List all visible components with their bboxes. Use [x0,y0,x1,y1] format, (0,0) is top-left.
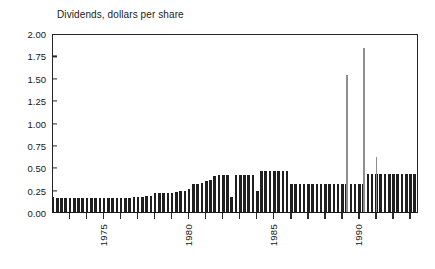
dividend-bar [273,171,276,212]
dividend-bar [86,198,89,212]
dividend-bar [358,184,361,212]
dividend-bar [320,184,323,212]
dividend-bar [230,197,233,212]
dividend-bar [354,184,357,212]
dividend-bar [73,198,76,212]
dividend-bar [290,184,293,212]
x-axis-tick-mark [409,213,410,219]
y-axis-tick-mark [52,56,57,57]
dividend-bar [286,171,289,212]
y-axis-tick-mark [52,168,57,169]
y-axis-labels: 0.000.250.500.751.001.251.501.752.00 [2,34,46,213]
dividend-bar [218,175,221,212]
dividend-bar [196,184,199,212]
dividend-bar [175,192,178,212]
dividend-bar [405,174,408,212]
dividend-bar [324,184,327,212]
dividend-bar [111,198,114,212]
dividend-bar [392,174,395,212]
dividend-bar [145,196,148,212]
x-axis-tick-label: 1990 [353,224,364,246]
x-axis-tick-mark [205,213,206,219]
dividend-bar [247,175,250,212]
dividend-bar [337,184,340,212]
dividend-bar [333,184,336,212]
bars-layer [53,35,417,212]
dividend-bar [264,171,267,212]
x-axis-tick-mark [239,213,240,219]
x-axis-tick-mark [120,213,121,219]
x-axis-tick-mark [154,213,155,219]
dividend-bar [99,198,102,212]
y-axis-tick-label: 1.75 [6,51,46,62]
dividend-bar [124,198,127,212]
dividend-bar [209,180,212,212]
dividend-bar [150,196,153,212]
dividend-bar [201,183,204,212]
dividend-bar [396,174,399,212]
dividend-bar [341,184,344,212]
dividend-bar [303,184,306,212]
dividend-bar [184,191,187,212]
dividend-bar [367,174,370,212]
y-axis-tick-mark [52,101,57,102]
dividend-bar [311,184,314,212]
dividend-bar [260,171,263,212]
dividend-bar [384,174,387,212]
y-axis-tick-mark [52,145,57,146]
y-axis-tick-mark [52,190,57,191]
y-axis-tick-label: 1.50 [6,73,46,84]
dividend-bar [107,198,110,212]
dividends-bar-chart: Dividends, dollars per share 0.000.250.5… [0,0,435,269]
x-axis-tick-mark [222,213,223,219]
y-axis-tick-mark [52,123,57,124]
dividend-bar [213,176,216,212]
dividend-bar [179,191,182,212]
dividend-bar [141,197,144,212]
dividend-bar [167,193,170,212]
x-axis-tick-mark [103,213,104,219]
dividend-bar [77,198,80,212]
special-dividend-bar [363,48,365,212]
x-axis-tick-mark [86,213,87,219]
dividend-bar [294,184,297,212]
dividend-bar [192,184,195,212]
x-axis-tick-label: 1985 [268,224,279,246]
dividend-bar [188,189,191,212]
dividend-bar [328,184,331,212]
x-axis-tick-mark [392,213,393,219]
x-axis-tick-mark [171,213,172,219]
dividend-bar [371,174,374,212]
dividend-bar [316,184,319,212]
dividend-bar [388,174,391,212]
x-axis-tick-mark [307,213,308,219]
y-axis-tick-mark [52,78,57,79]
dividend-bar [128,198,131,212]
dividend-bar [282,171,285,212]
dividend-bar [116,198,119,212]
dividend-bar [90,198,93,212]
dividend-bar [171,193,174,212]
x-axis-tick-mark [358,213,359,219]
x-axis-tick-mark [375,213,376,219]
dividend-bar [239,175,242,212]
x-axis-tick-mark [341,213,342,219]
y-axis-tick-label: 0.00 [6,208,46,219]
dividend-bar [52,197,55,212]
dividend-bar [413,174,416,212]
dividend-bar [350,184,353,212]
y-axis-tick-label: 1.00 [6,118,46,129]
dividend-bar [137,197,140,212]
dividend-bar [409,174,412,212]
y-axis-tick-label: 0.75 [6,140,46,151]
dividend-bar [269,171,272,212]
dividend-bar [205,181,208,212]
dividend-bar [64,198,67,212]
dividend-bar [94,198,97,212]
dividend-bar [158,193,161,212]
dividend-bar [307,184,310,212]
x-axis-tick-label: 1980 [183,224,194,246]
x-axis-tick-mark [188,213,189,219]
dividend-bar [60,198,63,212]
x-axis-tick-mark [290,213,291,219]
